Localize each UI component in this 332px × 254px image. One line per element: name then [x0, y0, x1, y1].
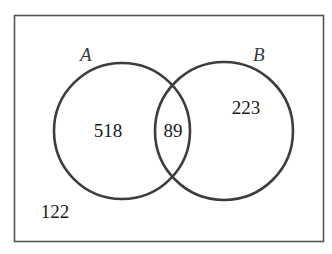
- set-a-label: A: [78, 44, 92, 65]
- set-b-only-value: 223: [232, 97, 261, 118]
- outside-value: 122: [41, 201, 70, 222]
- set-a-only-value: 518: [94, 120, 123, 141]
- intersection-value: 89: [164, 120, 183, 141]
- set-b-label: B: [253, 44, 265, 65]
- venn-diagram: A B 518 89 223 122: [0, 0, 332, 254]
